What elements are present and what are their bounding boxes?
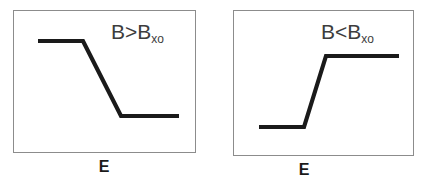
curve-left bbox=[14, 11, 195, 152]
condition-label-right-subscript: xo bbox=[361, 32, 374, 46]
x-axis-label-left: E bbox=[74, 159, 134, 175]
figure-container: B>Bxo E B<Bxo E bbox=[0, 0, 425, 183]
condition-label-left-base: B>B bbox=[111, 20, 151, 43]
curve-left-polyline bbox=[38, 41, 179, 116]
condition-label-left-subscript: xo bbox=[151, 32, 164, 46]
curve-right-polyline bbox=[259, 56, 399, 127]
condition-label-right-base: B<B bbox=[321, 20, 361, 43]
x-axis-label-right: E bbox=[274, 162, 334, 178]
condition-label-left: B>Bxo bbox=[111, 21, 164, 42]
condition-label-right: B<Bxo bbox=[321, 21, 374, 42]
plot-panel-left bbox=[13, 10, 196, 153]
